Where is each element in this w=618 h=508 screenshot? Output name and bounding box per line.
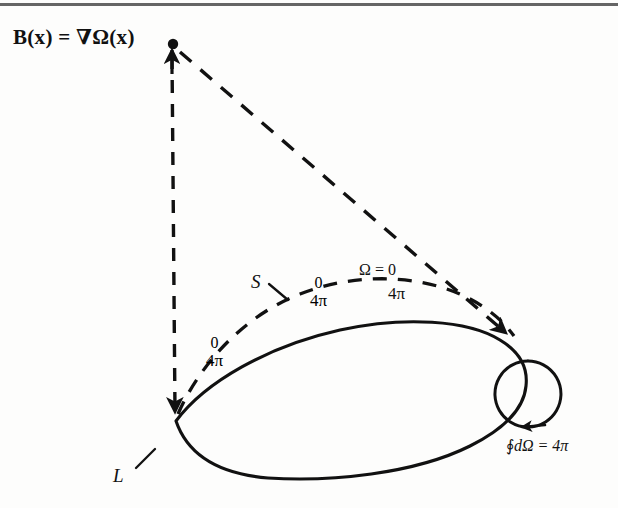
field-equation-label: B(x) = ∇Ω(x) bbox=[13, 27, 135, 48]
loop-label-leader bbox=[136, 449, 155, 468]
flux-integral-label: ∮dΩ = 4π bbox=[506, 438, 568, 454]
dashed-vertical-axis bbox=[172, 56, 175, 412]
figure-canvas: B(x) = ∇Ω(x) S L 0 4π 0 4π Ω = 0 4π ∮dΩ … bbox=[0, 0, 618, 508]
loop-label-l: L bbox=[113, 466, 124, 485]
potential-jump-left-numerator: 0 bbox=[206, 335, 223, 352]
potential-jump-middle-denominator: 4π bbox=[310, 292, 327, 310]
field-point-dot bbox=[168, 39, 178, 49]
surface-label-leader bbox=[269, 284, 288, 300]
dashed-cap-surface bbox=[178, 279, 514, 414]
potential-jump-middle-numerator: 0 bbox=[310, 275, 327, 292]
solid-angle-circle bbox=[495, 361, 561, 427]
potential-jump-left-denominator: 4π bbox=[206, 352, 223, 370]
omega-zero-label: Ω = 0 bbox=[359, 262, 396, 278]
potential-jump-left: 0 4π bbox=[206, 335, 223, 370]
solid-angle-circle-arrowhead bbox=[522, 425, 545, 427]
diagram-vector-graphics bbox=[0, 0, 618, 508]
dashed-diagonal-ray bbox=[180, 52, 506, 333]
surface-label-s: S bbox=[251, 272, 261, 291]
potential-jump-right-denominator: 4π bbox=[388, 285, 405, 302]
potential-jump-middle: 0 4π bbox=[310, 275, 327, 310]
contour-integral-icon: ∮ bbox=[506, 437, 514, 454]
flux-integral-body: dΩ = 4π bbox=[514, 437, 568, 454]
current-loop-path bbox=[176, 322, 526, 479]
